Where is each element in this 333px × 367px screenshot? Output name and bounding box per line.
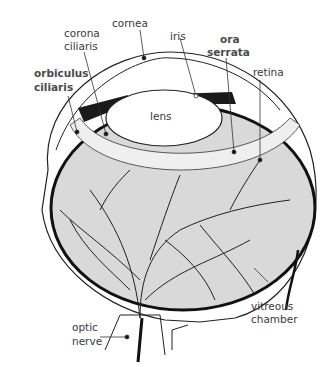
eye-diagram: cornea corona ciliaris iris ora serrata … <box>0 0 333 367</box>
label-optic-nerve-line1: optic <box>72 321 98 334</box>
label-optic-nerve-line2: nerve <box>72 335 102 348</box>
label-orbiculus-ciliaris-line1: orbiculus <box>34 67 89 80</box>
label-corona-ciliaris-line2: ciliaris <box>64 40 98 53</box>
label-vitreous-chamber-line2: chamber <box>251 313 298 326</box>
label-lens: lens <box>150 110 172 123</box>
label-iris: iris <box>170 30 186 43</box>
label-ora-serrata-line1: ora <box>220 33 239 46</box>
label-vitreous-chamber-line1: vitreous <box>251 300 293 313</box>
label-retina: retina <box>253 66 284 79</box>
label-orbiculus-ciliaris-line2: ciliaris <box>34 81 73 94</box>
label-corona-ciliaris-line1: corona <box>64 27 100 40</box>
label-ora-serrata-line2: serrata <box>207 46 250 59</box>
label-cornea: cornea <box>112 17 148 30</box>
